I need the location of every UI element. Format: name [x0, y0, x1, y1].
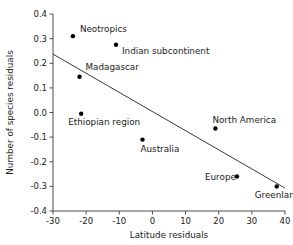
x-tick-label: -30	[46, 216, 60, 226]
x-tick-label: 40	[280, 216, 291, 226]
axis-spines	[53, 14, 285, 211]
x-axis-title: Latitude residuals	[130, 230, 209, 240]
data-point-label: Indian subcontinent	[122, 46, 210, 56]
y-axis-title: Number of species residuals	[5, 50, 15, 175]
x-tick-label: 10	[180, 216, 191, 226]
data-point	[213, 126, 217, 130]
data-point	[275, 184, 279, 188]
x-tick-label: 20	[213, 216, 224, 226]
data-point	[71, 34, 75, 38]
scatter-chart: 0.40.30.20.10.0-0.1-0.2-0.3-0.4-30-20-10…	[0, 0, 293, 245]
y-tick-label: 0.0	[33, 108, 47, 118]
data-point-label: Greenland	[255, 190, 293, 200]
data-point-label: Australia	[140, 144, 179, 154]
y-tick-label: -0.4	[30, 206, 47, 216]
y-tick-label: 0.3	[33, 34, 47, 44]
x-tick-label: 0	[150, 216, 155, 226]
data-point	[114, 43, 118, 47]
y-tick-label: 0.2	[33, 58, 47, 68]
y-tick-label: 0.4	[33, 9, 47, 19]
x-tick-label: 30	[246, 216, 257, 226]
data-point-label: Europe	[205, 172, 236, 182]
data-point	[79, 112, 83, 116]
data-point	[140, 137, 144, 141]
data-point-label: Neotropics	[80, 24, 127, 34]
y-tick-label: -0.1	[30, 132, 47, 142]
x-tick-label: -10	[112, 216, 126, 226]
y-tick-label: -0.3	[30, 181, 47, 191]
data-point	[77, 75, 81, 79]
data-point-label: Madagascar	[86, 62, 140, 72]
plot-area: 0.40.30.20.10.0-0.1-0.2-0.3-0.4-30-20-10…	[0, 0, 293, 245]
x-tick-label: -20	[79, 216, 93, 226]
data-point-label: North America	[212, 115, 276, 125]
y-tick-label: -0.2	[30, 157, 47, 167]
y-tick-label: 0.1	[33, 83, 47, 93]
data-point-label: Ethiopian region	[68, 117, 140, 127]
